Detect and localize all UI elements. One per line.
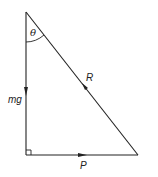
r-label: R (86, 72, 93, 83)
mg-label: mg (8, 94, 22, 105)
arrow-down-icon (24, 87, 28, 96)
arrow-right-icon (78, 153, 87, 157)
theta-label: θ (30, 27, 36, 38)
arrow-up-left-icon (82, 83, 88, 90)
force-triangle-diagram: θ mg R P (0, 0, 158, 177)
side-r (26, 12, 138, 155)
p-label: P (80, 160, 87, 171)
right-angle-marker (26, 150, 31, 155)
